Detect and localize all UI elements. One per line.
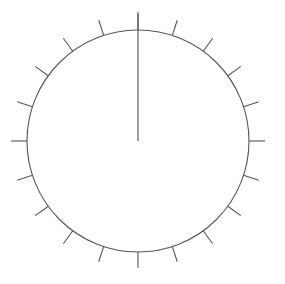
dial-tick-7 bbox=[228, 206, 241, 215]
dial-tick-13 bbox=[35, 206, 48, 215]
dial-tick-14 bbox=[17, 175, 32, 180]
dial-tick-2 bbox=[203, 38, 212, 51]
dial-widget bbox=[0, 0, 285, 284]
dial-tick-17 bbox=[35, 66, 48, 75]
dial-tick-18 bbox=[63, 38, 72, 51]
dial-tick-9 bbox=[172, 247, 177, 262]
dial-tick-6 bbox=[244, 175, 259, 180]
dial-tick-8 bbox=[203, 231, 212, 244]
dial-tick-3 bbox=[228, 66, 241, 75]
dial-tick-4 bbox=[244, 102, 259, 107]
dial-tick-19 bbox=[99, 20, 104, 35]
dial-svg bbox=[0, 0, 285, 284]
dial-tick-12 bbox=[63, 231, 72, 244]
dial-tick-1 bbox=[172, 20, 177, 35]
dial-tick-16 bbox=[17, 102, 32, 107]
dial-tick-11 bbox=[99, 247, 104, 262]
